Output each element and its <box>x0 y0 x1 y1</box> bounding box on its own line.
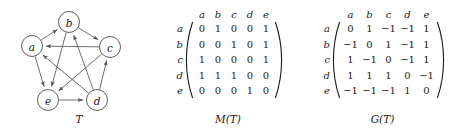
matrix-cell: 1 <box>360 21 379 37</box>
matrix-row-header: d <box>320 68 332 84</box>
matrix-cell: 0 <box>210 37 226 53</box>
graph-node-b: b <box>59 12 80 33</box>
matrix-left-paren <box>332 21 341 99</box>
matrix-cell: 1 <box>360 68 379 84</box>
matrix-cell: 1 <box>226 37 242 53</box>
graph-edge-d-a <box>43 55 89 93</box>
graph-edge-b-e <box>52 33 67 87</box>
graph-node-e: e <box>38 90 59 111</box>
node-label-d: d <box>94 95 101 107</box>
matrix-col-header: c <box>226 8 242 21</box>
matrix-row-header: b <box>320 37 332 53</box>
matrix-cell: 0 <box>210 83 226 99</box>
graph-node-d: d <box>87 90 108 111</box>
matrix-cell: 0 <box>379 52 398 68</box>
matrix-cell: −1 <box>379 21 398 37</box>
matrix-m-grid: abcdea01001b00101c10001d11100e00010 <box>173 8 283 99</box>
matrix-row-header: e <box>173 83 185 99</box>
matrix-cell: 1 <box>417 52 436 68</box>
matrix-cell: 0 <box>242 21 258 37</box>
matrix-cell: 0 <box>194 21 210 37</box>
matrix-cell: 1 <box>341 52 360 68</box>
matrix-right-paren <box>436 21 445 99</box>
graph-edge-a-b <box>41 30 57 40</box>
graph-edge-c-a <box>46 46 99 47</box>
matrix-g-grid: abcdea01−1−11b−101−11c1−10−11d1110−1e−1−… <box>320 8 445 99</box>
matrix-cell: 0 <box>226 52 242 68</box>
matrix-cell: 0 <box>194 83 210 99</box>
matrix-g-caption: G(T) <box>300 113 465 125</box>
matrix-cell: 0 <box>210 52 226 68</box>
matrix-cell: −1 <box>417 68 436 84</box>
matrix-cell: 1 <box>194 68 210 84</box>
matrix-cell: 1 <box>258 21 274 37</box>
graph-node-a: a <box>22 36 43 57</box>
matrix-cell: 0 <box>242 37 258 53</box>
matrix-cell: 0 <box>360 37 379 53</box>
matrix-cell: 0 <box>258 83 274 99</box>
matrix-cell: 0 <box>417 83 436 99</box>
tournament-graph-panel: abcde T <box>0 0 158 138</box>
matrix-cell: 1 <box>417 37 436 53</box>
matrix-col-header: c <box>379 8 398 21</box>
matrix-cell: 1 <box>210 68 226 84</box>
matrix-cell: 1 <box>379 68 398 84</box>
matrix-cell: 0 <box>226 83 242 99</box>
figure-root: abcde T abcdea01001b00101c10001d11100e00… <box>0 0 465 138</box>
matrix-cell: 1 <box>258 37 274 53</box>
matrix-col-header: d <box>242 8 258 21</box>
matrix-cell: −1 <box>360 83 379 99</box>
matrix-left-paren <box>185 21 194 99</box>
matrix-cell: 1 <box>210 21 226 37</box>
node-label-a: a <box>29 41 35 53</box>
matrix-cell: −1 <box>341 37 360 53</box>
matrix-cell: 1 <box>242 83 258 99</box>
matrix-cell: 1 <box>194 52 210 68</box>
matrix-col-header: b <box>360 8 379 21</box>
node-label-b: b <box>66 17 73 29</box>
matrix-col-header: e <box>258 8 274 21</box>
matrix-row-header: d <box>173 68 185 84</box>
matrix-cell: 1 <box>341 68 360 84</box>
matrix-cell: 1 <box>258 52 274 68</box>
matrix-m-block: abcdea01001b00101c10001d11100e00010 <box>158 8 298 99</box>
graph-edge-d-b <box>74 35 94 90</box>
matrix-cell: 0 <box>226 21 242 37</box>
matrix-cell: −1 <box>360 52 379 68</box>
graph-edge-b-c <box>78 28 98 40</box>
matrix-cell: 0 <box>194 37 210 53</box>
matrix-cell: 1 <box>398 83 417 99</box>
matrix-cell: 0 <box>242 68 258 84</box>
matrix-cell: −1 <box>379 83 398 99</box>
graph-edge-d-c <box>100 60 107 89</box>
matrix-row-header: a <box>173 21 185 37</box>
node-label-e: e <box>45 95 51 107</box>
matrix-col-header: a <box>194 8 210 21</box>
matrix-cell: −1 <box>341 83 360 99</box>
matrix-cell: 1 <box>379 37 398 53</box>
matrix-m-caption: M(T) <box>158 113 298 125</box>
matrix-row-header: b <box>173 37 185 53</box>
matrix-row-header: c <box>173 52 185 68</box>
graph-node-c: c <box>100 37 121 58</box>
matrix-cell: 0 <box>398 68 417 84</box>
matrix-g-panel: abcdea01−1−11b−101−11c1−10−11d1110−1e−1−… <box>300 0 465 138</box>
matrix-cell: −1 <box>398 37 417 53</box>
matrix-g-block: abcdea01−1−11b−101−11c1−10−11d1110−1e−1−… <box>300 8 465 99</box>
matrix-col-header: e <box>417 8 436 21</box>
matrix-row-header: e <box>320 83 332 99</box>
tournament-graph: abcde <box>0 0 158 120</box>
matrix-cell: 0 <box>341 21 360 37</box>
matrix-cell: 1 <box>417 21 436 37</box>
matrix-cell: 1 <box>226 68 242 84</box>
matrix-cell: 0 <box>242 52 258 68</box>
matrix-col-header: b <box>210 8 226 21</box>
matrix-row-header: a <box>320 21 332 37</box>
matrix-m-panel: abcdea01001b00101c10001d11100e00010 M(T) <box>158 0 298 138</box>
matrix-cell: −1 <box>398 21 417 37</box>
matrix-cell: 0 <box>258 68 274 84</box>
matrix-col-header: a <box>341 8 360 21</box>
matrix-row-header: c <box>320 52 332 68</box>
node-label-c: c <box>107 42 113 54</box>
matrix-cell: −1 <box>398 52 417 68</box>
